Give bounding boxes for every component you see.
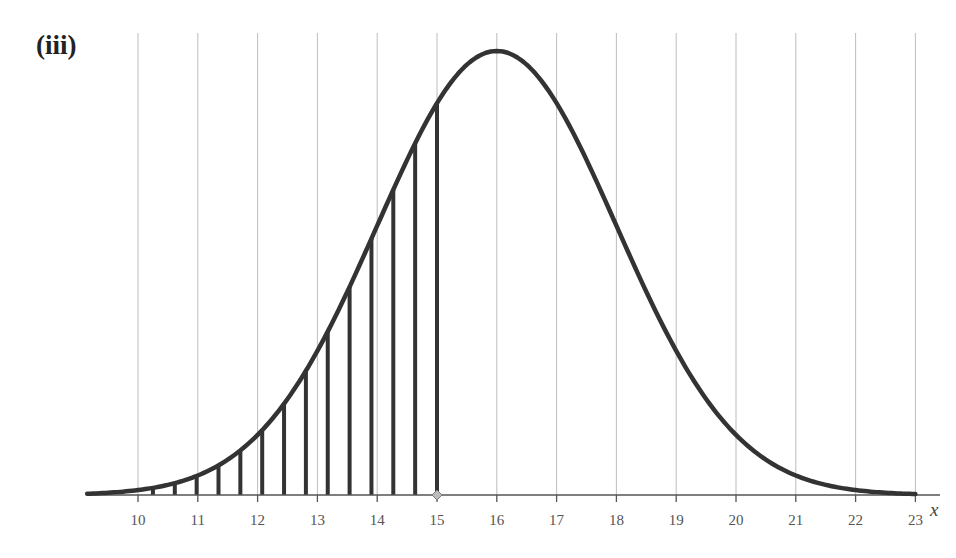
normal-curve: [87, 51, 915, 494]
tick-label-21: 21: [788, 512, 803, 528]
tick-label-12: 12: [250, 512, 265, 528]
tick-label-20: 20: [729, 512, 744, 528]
tick-label-11: 11: [191, 512, 205, 528]
x-axis-ticks: 1011121314151617181920212223: [131, 495, 923, 528]
x-axis-variable-label: x: [929, 499, 939, 520]
tick-label-18: 18: [609, 512, 624, 528]
point-marker-diamond: [432, 490, 442, 500]
vertical-gridlines: [138, 33, 915, 495]
tick-label-14: 14: [370, 512, 386, 528]
tick-label-22: 22: [848, 512, 863, 528]
tick-label-10: 10: [131, 512, 146, 528]
shaded-region-hatching: [153, 103, 437, 495]
tick-label-17: 17: [549, 512, 565, 528]
tick-label-15: 15: [430, 512, 445, 528]
tick-label-23: 23: [908, 512, 923, 528]
normal-distribution-chart: 1011121314151617181920212223 x: [0, 0, 956, 558]
tick-label-13: 13: [310, 512, 325, 528]
tick-label-19: 19: [669, 512, 684, 528]
tick-label-16: 16: [489, 512, 505, 528]
